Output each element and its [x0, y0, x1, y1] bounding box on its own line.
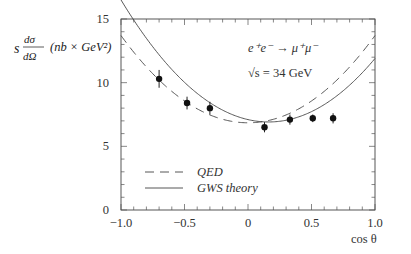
gws-curve: [121, 0, 375, 122]
x-tick-label: −1.0: [110, 216, 133, 230]
y-axis-label: s dσ dΩ (nb × GeV²): [14, 33, 111, 62]
y-tick-label: 15: [97, 12, 110, 26]
y-tick-label: 5: [103, 139, 109, 153]
legend-label: QED: [197, 165, 223, 179]
x-axis-label: cos θ: [351, 232, 377, 246]
process-label: e⁺e⁻ → μ⁺μ⁻: [248, 41, 319, 55]
point-marker: [184, 100, 190, 106]
x-tick-label: 0.5: [304, 216, 320, 230]
data-point: [156, 70, 162, 88]
y-tick-label: 0: [103, 203, 109, 217]
legend: QEDGWS theory: [145, 165, 258, 195]
legend-label: GWS theory: [197, 181, 258, 195]
svg-text:dΩ: dΩ: [23, 50, 37, 62]
data-point: [287, 115, 293, 125]
svg-text:s: s: [14, 41, 20, 56]
energy-label: √s = 34 GeV: [248, 66, 312, 80]
theory-curves: [121, 0, 375, 123]
point-marker: [207, 105, 213, 111]
point-marker: [261, 124, 267, 130]
point-marker: [330, 115, 336, 121]
svg-text:dσ: dσ: [24, 33, 36, 45]
point-marker: [310, 115, 316, 121]
x-tick-label: −0.5: [173, 216, 196, 230]
process-annotations: e⁺e⁻ → μ⁺μ⁻√s = 34 GeV: [248, 41, 319, 80]
data-point: [184, 97, 190, 110]
cross-section-chart: s dσ dΩ (nb × GeV²) −1.0−0.500.51.005101…: [0, 0, 411, 254]
x-tick-label: 1.0: [367, 216, 383, 230]
svg-text:(nb × GeV²): (nb × GeV²): [50, 40, 111, 54]
data-point: [310, 115, 316, 123]
point-marker: [156, 76, 162, 82]
data-point: [330, 113, 336, 123]
data-point: [261, 122, 267, 132]
tick-labels: −1.0−0.500.51.0051015: [97, 12, 383, 230]
point-marker: [287, 116, 293, 122]
x-tick-label: 0: [245, 216, 251, 230]
y-tick-label: 10: [97, 76, 110, 90]
